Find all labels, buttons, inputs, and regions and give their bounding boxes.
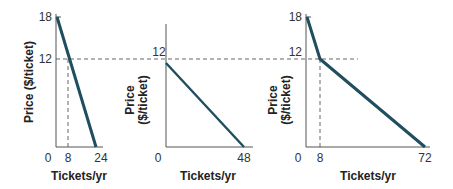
panel-3-y-tick-label-18: 18 xyxy=(289,10,303,24)
panel-2-x-axis-label: Tickets/yr xyxy=(180,169,236,183)
panel-3-y-axis-label-line1: Price xyxy=(266,85,280,115)
panel-2-y-axis-label-line2: ($/ticket) xyxy=(136,75,150,124)
panel-3-y-axis-label-line2: ($/ticket) xyxy=(279,75,293,124)
panel-2-y-tick-label-12: 12 xyxy=(152,45,166,59)
panel-1-chart: 18 12 0 8 24 Tickets/yr Price ($/ticket) xyxy=(22,10,108,183)
panel-1-y-tick-label-12: 12 xyxy=(39,52,53,66)
demand-charts: 18 12 0 8 24 Tickets/yr Price ($/ticket)… xyxy=(0,0,453,189)
panel-3-chart: 18 12 0 8 72 Tickets/yr Price ($/ticket) xyxy=(266,10,432,183)
panel-1-x-axis-label: Tickets/yr xyxy=(51,169,107,183)
panel-1-x-tick-label-8: 8 xyxy=(65,151,72,165)
panel-3-x-tick-label-8: 8 xyxy=(317,151,324,165)
panel-2-chart: 12 0 48 Tickets/yr Price ($/ticket) xyxy=(123,24,253,183)
panel-3-y-tick-label-12: 12 xyxy=(289,45,303,59)
panel-3-market-demand-curve xyxy=(307,17,425,147)
panel-1-y-axis-label: Price ($/ticket) xyxy=(22,41,36,123)
panel-1-demand-curve xyxy=(57,17,96,147)
panel-3-x-tick-label-0: 0 xyxy=(295,151,302,165)
panel-2-y-axis-label-line1: Price xyxy=(123,85,137,115)
panel-3-x-axis-label: Tickets/yr xyxy=(340,169,396,183)
panel-1-y-tick-label-18: 18 xyxy=(39,10,53,24)
panel-1-x-tick-label-0: 0 xyxy=(45,151,52,165)
panel-2-demand-curve xyxy=(166,63,244,147)
panel-2-x-tick-label-0: 0 xyxy=(155,151,162,165)
panel-3-x-tick-label-72: 72 xyxy=(418,151,432,165)
panel-1-x-tick-label-24: 24 xyxy=(94,151,108,165)
panel-2-x-tick-label-48: 48 xyxy=(237,151,251,165)
